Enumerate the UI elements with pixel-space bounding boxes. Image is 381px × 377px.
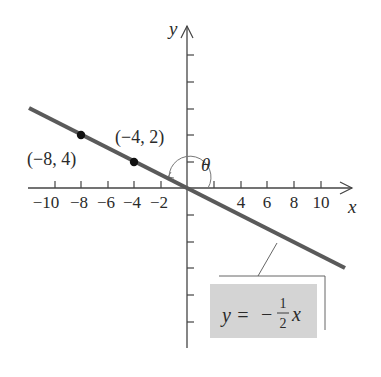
x-tick-labels: −10 −8 −6 −4 −2 4 6 8 10 — [33, 193, 330, 212]
leader-line — [258, 243, 277, 276]
equation-denominator: 2 — [280, 316, 287, 331]
x-tick-label: 10 — [313, 193, 330, 212]
x-axis-label: x — [347, 196, 357, 217]
theta-label: θ — [201, 154, 210, 175]
x-tick-label: 4 — [237, 193, 246, 212]
x-tick-label: −6 — [97, 193, 115, 212]
y-axis-label: y — [167, 18, 178, 39]
x-tick-label: −2 — [150, 193, 168, 212]
point-neg4-2 — [130, 158, 138, 166]
equation-numerator: 1 — [280, 296, 287, 311]
x-tick-label: −4 — [123, 193, 142, 212]
x-tick-label: 6 — [263, 193, 272, 212]
coordinate-plane: −10 −8 −6 −4 −2 4 6 8 10 x y θ (−8, 4) (… — [0, 0, 381, 377]
equation-y: y = — [220, 304, 249, 327]
equation-sign: − — [261, 303, 272, 325]
equation-x: x — [291, 303, 301, 325]
x-tick-label: −8 — [70, 193, 88, 212]
point-neg8-4 — [77, 131, 85, 139]
equation-callout: y = − 1 2 x — [210, 243, 325, 338]
point-label: (−4, 2) — [115, 127, 164, 148]
x-tick-label: −10 — [33, 193, 60, 212]
point-label: (−8, 4) — [27, 149, 76, 170]
x-tick-label: 8 — [290, 193, 299, 212]
